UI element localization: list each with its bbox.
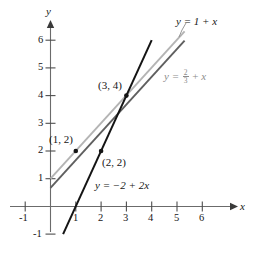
equation-label-line3-var: x (144, 179, 149, 191)
equation-label-line2-text: y = (164, 70, 182, 82)
y-axis-arrow (47, 20, 54, 28)
y-tick-label--1: -1 (33, 229, 42, 240)
point-3-4 (124, 93, 129, 98)
point-label-3-4: (3, 4) (98, 80, 122, 91)
equation-label-line1: y = 1 + x (176, 16, 217, 27)
point-2-2 (99, 149, 104, 154)
y-tick-label-5: 5 (38, 62, 43, 73)
fraction-denominator: 3 (183, 77, 189, 85)
x-axis-label: x (240, 201, 245, 212)
x-tick-label-1: 1 (73, 213, 78, 224)
point-label-2-2: (2, 2) (102, 157, 126, 168)
point-1-2 (74, 149, 79, 154)
equation-label-line2-plus: + (190, 70, 202, 82)
y-axis-label: y (46, 6, 51, 17)
y-tick-label-1: 1 (38, 173, 43, 184)
fraction-two-thirds: 23 (183, 69, 189, 86)
x-tick-label-2: 2 (98, 213, 103, 224)
x-tick-label--1: -1 (19, 213, 28, 224)
y-tick-label-2: 2 (38, 145, 43, 156)
y-tick-label-4: 4 (38, 90, 43, 101)
x-tick-label-4: 4 (148, 213, 153, 224)
graph-figure: -1 1 2 3 4 5 6 -1 1 2 3 4 5 6 x y (1, 2)… (0, 0, 254, 260)
x-axis-arrow (230, 203, 238, 210)
equation-label-line3-text: y = −2 + 2 (95, 179, 144, 191)
equation-label-line1-text: y = 1 + (176, 15, 212, 27)
x-tick-label-6: 6 (199, 213, 204, 224)
y-tick-label-6: 6 (38, 35, 43, 46)
x-tick-label-3: 3 (123, 213, 128, 224)
equation-label-line2: y = 23 + x (164, 69, 206, 86)
x-tick-label-5: 5 (174, 213, 179, 224)
equation-label-line1-var: x (212, 15, 217, 27)
equation-label-line3: y = −2 + 2x (95, 180, 149, 191)
line-y-equals-minus2-plus-2x (63, 40, 152, 234)
equation-label-line2-var: x (201, 70, 206, 82)
point-label-1-2: (1, 2) (49, 134, 73, 145)
y-tick-label-3: 3 (38, 118, 43, 129)
